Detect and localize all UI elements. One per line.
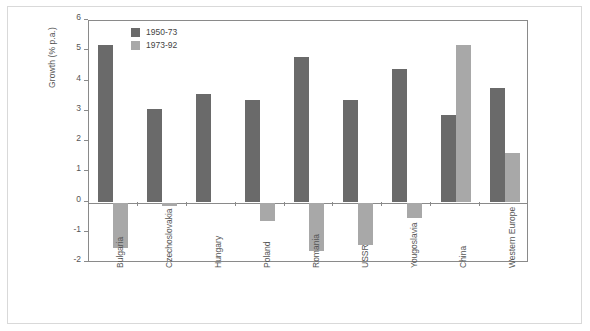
legend-label: 1950-73	[146, 28, 177, 37]
bar	[147, 109, 162, 203]
bar	[245, 100, 260, 203]
y-axis: 6543210-1-2	[0, 0, 88, 331]
x-axis-tick	[479, 202, 480, 206]
bar	[456, 45, 471, 202]
y-tick-label: 6	[76, 13, 81, 22]
x-axis-tick	[430, 202, 431, 206]
y-axis-title: Growth (% p.a.)	[47, 27, 57, 88]
y-tick-label: -1	[73, 225, 81, 234]
bar	[392, 69, 407, 202]
legend-item: 1950-73	[131, 26, 177, 39]
legend-swatch	[131, 41, 140, 50]
y-tick-label: 4	[76, 74, 81, 83]
x-axis-tick	[186, 202, 187, 206]
bar	[407, 203, 422, 218]
x-axis-label: Romania	[312, 234, 321, 268]
bar	[294, 57, 309, 202]
x-axis-label: Bulgaria	[116, 237, 125, 268]
x-axis-label: China	[459, 246, 468, 268]
x-axis-label: Western Europe	[508, 207, 517, 268]
x-axis-tick	[137, 202, 138, 206]
bar	[196, 94, 211, 203]
x-axis-label: Hungary	[214, 236, 223, 268]
x-axis-label: Poland	[263, 242, 272, 268]
x-axis-tick	[332, 202, 333, 206]
bar	[343, 100, 358, 203]
bar	[505, 153, 520, 203]
chart-legend: 1950-731973-92	[131, 26, 177, 52]
bar	[441, 115, 456, 203]
x-axis-tick	[284, 202, 285, 206]
legend-item: 1973-92	[131, 39, 177, 52]
y-tick-label: -2	[73, 255, 81, 264]
chart-figure: 6543210-1-2 Growth (% p.a.) BulgariaCzec…	[0, 0, 590, 331]
legend-label: 1973-92	[146, 41, 177, 50]
y-tick-label: 1	[76, 164, 81, 173]
bar	[162, 203, 177, 206]
plot-area	[88, 20, 528, 262]
bar	[490, 88, 505, 203]
legend-swatch	[131, 28, 140, 37]
x-axis-tick	[235, 202, 236, 206]
y-tick-label: 2	[76, 134, 81, 143]
y-tick-label: 5	[76, 43, 81, 52]
x-axis-label: Czechoslovakia	[165, 208, 174, 268]
x-axis-tick	[381, 202, 382, 206]
bar	[260, 203, 275, 221]
x-axis-label: USSR	[361, 244, 370, 268]
bar	[358, 203, 373, 245]
x-axis-label: Yougoslavia	[410, 222, 419, 268]
bar	[98, 45, 113, 202]
y-tick-label: 3	[76, 104, 81, 113]
zero-baseline	[89, 203, 527, 204]
y-tick-label: 0	[76, 195, 81, 204]
